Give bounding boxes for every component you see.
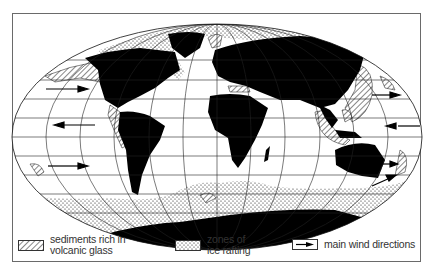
- legend-label-line2: volcanic glass: [50, 245, 125, 256]
- legend-label-line1: main wind directions: [324, 239, 415, 250]
- arrow-swatch-icon: [292, 239, 318, 250]
- legend-label-line2: ice rafting: [207, 245, 250, 256]
- legend-item-volcanic-glass: sediments rich in volcanic glass: [18, 234, 125, 256]
- legend: sediments rich in volcanic glass zones o…: [12, 231, 421, 262]
- map-body: [0, 24, 433, 250]
- legend-item-ice-rafting: zones of ice rafting: [175, 234, 250, 256]
- hatch-swatch-icon: [18, 240, 44, 251]
- volcanic-glass-mediterranean: [228, 86, 250, 92]
- dots-swatch-icon: [175, 240, 201, 251]
- legend-item-wind: main wind directions: [292, 239, 415, 250]
